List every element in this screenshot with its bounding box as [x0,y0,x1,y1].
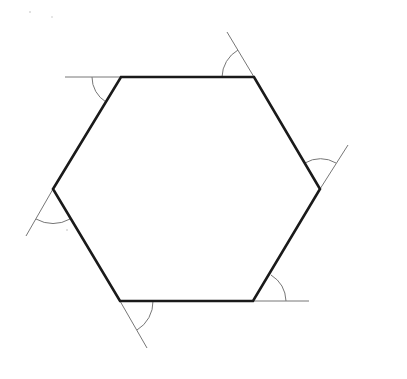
speck [29,11,31,13]
background [0,0,407,379]
speck [66,229,68,231]
hexagon-exterior-angles-diagram [0,0,407,379]
speck [51,16,52,17]
